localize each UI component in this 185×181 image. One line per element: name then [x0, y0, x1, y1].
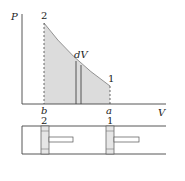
piston-2	[41, 126, 73, 154]
pv-diagram: P V 2 1 dV b a 2 1	[0, 0, 185, 181]
piston-1	[106, 126, 139, 154]
x-axis-label: V	[158, 107, 167, 118]
piston-1-label: 1	[107, 115, 113, 126]
piston-2-label: 2	[41, 115, 47, 126]
y-axis-label: P	[10, 11, 18, 22]
point-2-label: 2	[41, 10, 47, 21]
dv-label: dV	[74, 49, 89, 60]
point-1-label: 1	[108, 73, 114, 84]
